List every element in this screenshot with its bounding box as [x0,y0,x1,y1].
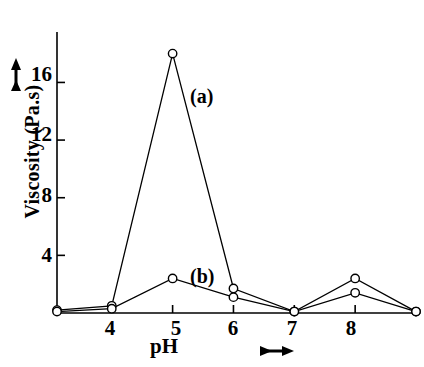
series-a-markers [53,49,420,315]
x-axis-ticks [112,305,355,313]
plot-area [0,0,424,367]
series-a-line [57,54,416,312]
y-axis-ticks [57,82,65,255]
series-b-markers [53,274,420,316]
viscosity-vs-ph-chart: Viscosity (Pa.s) 16 12 8 4 4 5 6 7 8 pH … [0,0,424,367]
axis-lines [57,32,416,313]
